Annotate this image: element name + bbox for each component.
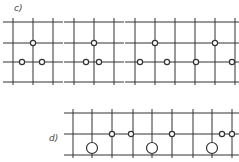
lattice-panel-c-3 <box>125 18 185 85</box>
section-label-c: c) <box>14 3 22 13</box>
small-atom-circle <box>164 59 169 64</box>
small-atom-circle <box>91 40 96 45</box>
lattice-panel-d-2 <box>124 109 184 158</box>
lattice-panel-c-1 <box>3 18 63 85</box>
small-atom-circle <box>152 40 157 45</box>
large-atom-circle <box>87 143 98 154</box>
small-atom-circle <box>219 131 224 136</box>
small-atom-circle <box>229 131 234 136</box>
small-atom-circle <box>193 59 198 64</box>
small-atom-circle <box>109 131 114 136</box>
lattice-panel-d-3 <box>184 109 239 158</box>
lattice-panel-d-1 <box>64 109 124 158</box>
small-atom-circle <box>96 59 101 64</box>
large-atom-circle <box>207 143 218 154</box>
small-atom-circle <box>83 59 88 64</box>
small-atom-circle <box>229 59 234 64</box>
small-atom-circle <box>169 131 174 136</box>
lattice-panel-c-4 <box>185 18 239 85</box>
lattice-panel-c-2 <box>64 18 124 85</box>
small-atom-circle <box>212 40 217 45</box>
small-atom-circle <box>128 131 133 136</box>
small-atom-circle <box>30 40 35 45</box>
lattice-diagram <box>0 0 239 162</box>
large-atom-circle <box>147 143 158 154</box>
small-atom-circle <box>19 59 24 64</box>
small-atom-circle <box>39 59 44 64</box>
section-label-d: d) <box>49 133 58 143</box>
small-atom-circle <box>137 59 142 64</box>
